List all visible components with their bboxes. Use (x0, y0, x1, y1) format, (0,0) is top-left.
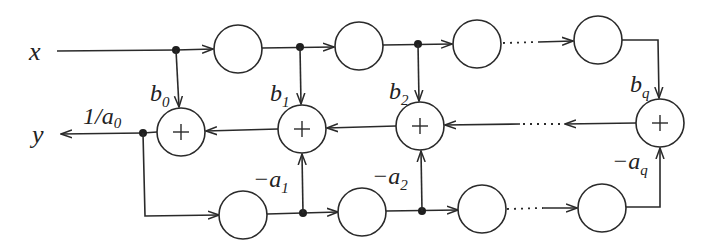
coef-bq-label: bq (630, 71, 650, 101)
top-delay-node-3 (453, 20, 501, 68)
coef-a2-label: −a2 (372, 163, 408, 193)
adder-1 (278, 105, 326, 153)
top-delay-node-1 (214, 25, 262, 73)
adder-row (61, 99, 684, 156)
tap-b1-wire (300, 47, 301, 104)
bottom-delay-node-1 (219, 191, 267, 239)
tap-a2-wire (421, 151, 422, 211)
output-wire (61, 133, 143, 134)
iir-filter-diagram: x y 1/a0 b0 b1 b2 bq −a1 −a2 −aq (0, 0, 707, 251)
coef-aq-label: −aq (612, 148, 648, 178)
top-delay-node-2 (335, 22, 383, 70)
top-delay-chain (57, 16, 659, 107)
adder-q (636, 99, 684, 147)
output-label: y (29, 120, 44, 149)
adder-0 (157, 108, 205, 156)
labels: x y 1/a0 b0 b1 b2 bq −a1 −a2 −aq (28, 37, 650, 196)
tap-a1-wire (302, 154, 303, 213)
input-label: x (28, 37, 41, 66)
coef-b0-label: b0 (150, 80, 170, 110)
bottom-delay-node-2 (338, 188, 386, 236)
wire-to-top-delay-q (538, 41, 573, 42)
tap-b2-wire (418, 44, 419, 101)
coef-a1-label: −a1 (253, 166, 289, 196)
top-delay-node-q (574, 16, 622, 64)
bottom-delay-node-q (578, 184, 626, 232)
coef-b2-label: b2 (389, 78, 409, 108)
coef-b1-label: b1 (270, 80, 290, 110)
wire-adder-q-left (565, 123, 636, 124)
adder-2 (396, 102, 444, 150)
output-gain-label: 1/a0 (83, 103, 122, 131)
wire-to-adder-2 (445, 124, 520, 125)
bottom-ellipsis-dots (507, 208, 543, 209)
wire-to-top-delay-1 (176, 49, 213, 50)
input-wire (57, 50, 176, 51)
wire-to-adder-0 (206, 129, 278, 131)
bottom-delay-node-3 (458, 185, 506, 233)
wire-to-adder-1 (327, 126, 396, 128)
top-ellipsis-dots (503, 42, 538, 43)
tap-b0-wire (176, 50, 179, 107)
